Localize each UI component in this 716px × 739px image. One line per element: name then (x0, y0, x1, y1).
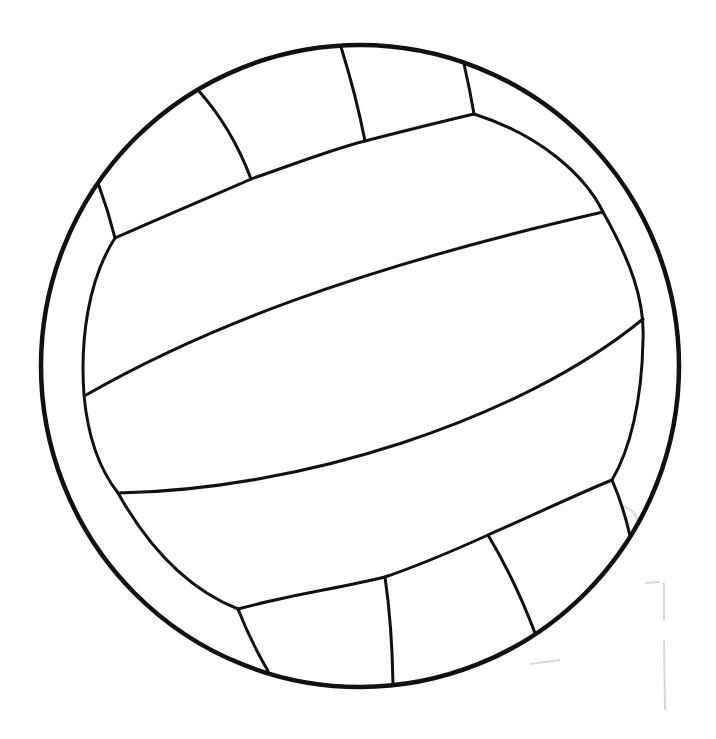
volleyball-drawing (0, 0, 716, 739)
